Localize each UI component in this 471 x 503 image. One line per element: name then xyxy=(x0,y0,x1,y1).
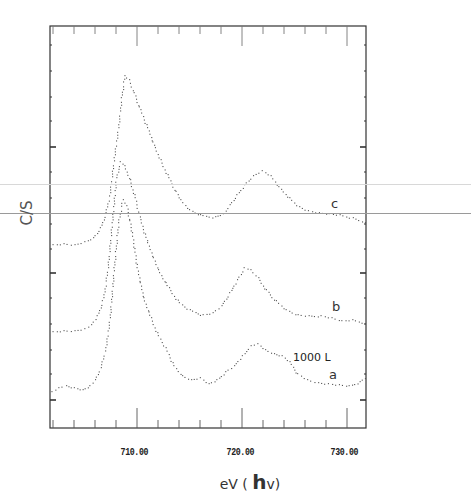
dose-annotation: 1000 L xyxy=(293,351,331,364)
x-tick-label-730: 730.00 xyxy=(331,446,358,458)
plot-frame xyxy=(50,26,366,428)
curve-label-a: a xyxy=(329,367,337,382)
x-axis-label-h: h xyxy=(252,470,266,494)
x-axis-label: eV ( hv) xyxy=(180,470,320,494)
x-tick-label-710: 710.00 xyxy=(121,446,148,458)
series-c-points xyxy=(53,75,367,246)
series-b-points xyxy=(53,161,367,332)
y-axis-label: C/S xyxy=(18,200,36,225)
plot-area xyxy=(0,0,471,503)
curve-label-c: c xyxy=(331,196,338,211)
overlay-line-light xyxy=(0,184,471,185)
x-axis-label-suffix: v) xyxy=(267,476,281,492)
curve-label-b: b xyxy=(332,299,340,314)
x-tick-label-720: 720.00 xyxy=(227,446,254,458)
axis-ticks xyxy=(50,26,366,428)
overlay-line-dark xyxy=(0,213,471,214)
x-axis-label-prefix: eV ( xyxy=(220,476,253,492)
